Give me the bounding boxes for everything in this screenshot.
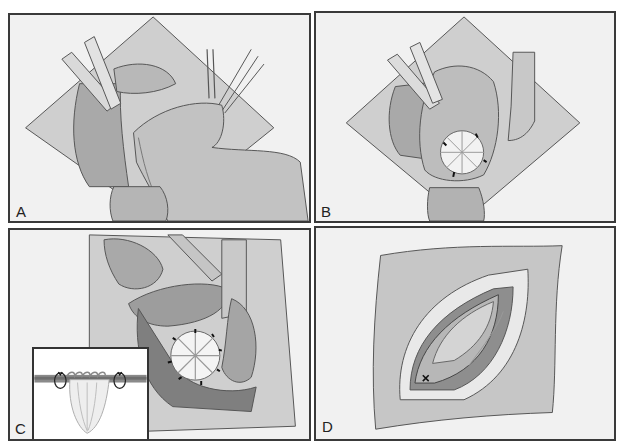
panel-c: C (8, 228, 311, 441)
panel-a: A (8, 13, 311, 223)
panel-label-a: A (16, 203, 26, 220)
cross-section-inset (32, 347, 149, 441)
panel-label-b: B (321, 203, 331, 220)
folded-tissue-illustration (316, 13, 614, 221)
wound-closure-illustration (316, 228, 614, 439)
cross-section-diagram (34, 349, 147, 440)
panel-b: B (314, 11, 616, 223)
panel-label-c: C (15, 420, 26, 437)
panel-d: D (314, 226, 616, 441)
retraction-illustration (10, 15, 309, 221)
panel-label-d: D (322, 418, 333, 435)
